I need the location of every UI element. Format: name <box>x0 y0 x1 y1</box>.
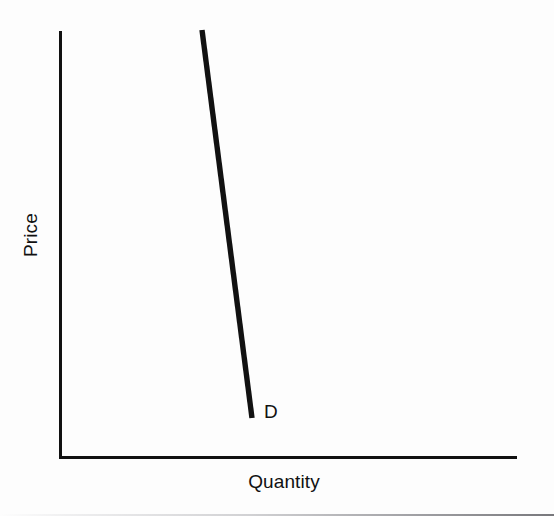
y-axis-label: Price <box>21 213 40 257</box>
plot-area <box>0 0 554 516</box>
demand-curve-figure: Price Quantity D <box>0 0 554 516</box>
demand-curve-label: D <box>264 402 278 421</box>
x-axis-label: Quantity <box>248 472 320 491</box>
demand-curve-line <box>202 30 252 418</box>
